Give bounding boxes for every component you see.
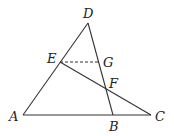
segment-AD — [23, 23, 88, 115]
label-F: F — [108, 76, 119, 91]
label-C: C — [155, 109, 165, 124]
label-D: D — [82, 6, 94, 21]
label-A: A — [8, 109, 18, 124]
label-E: E — [46, 51, 57, 66]
label-G: G — [103, 55, 113, 70]
label-B: B — [108, 119, 119, 134]
geometry-diagram: A B C D E F G — [0, 0, 174, 136]
